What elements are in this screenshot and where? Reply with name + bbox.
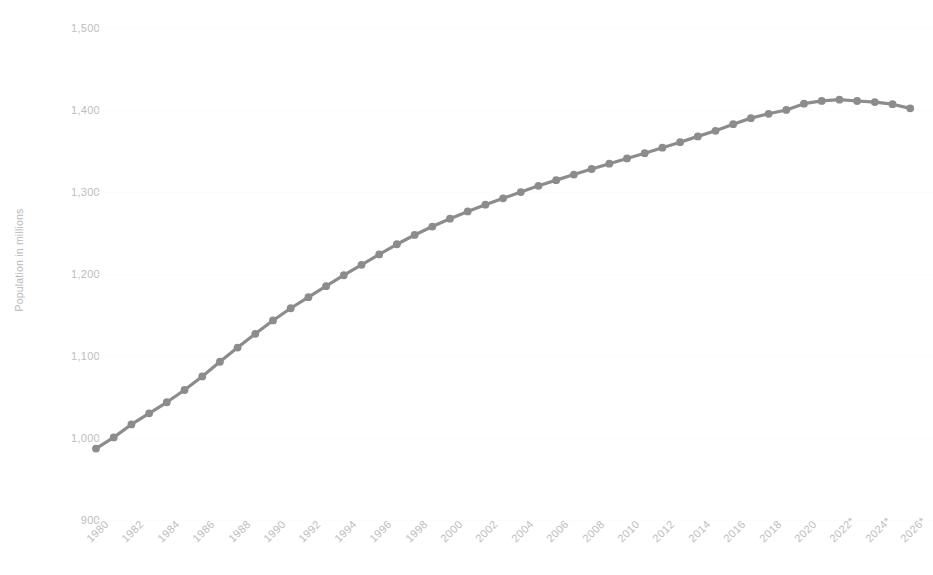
data-point-marker: [428, 223, 436, 231]
data-point-marker: [234, 344, 242, 352]
population-line-chart: Population in millions 9001,0001,1001,20…: [0, 0, 933, 575]
data-point-marker: [871, 98, 879, 106]
data-point-marker: [800, 100, 808, 108]
population-series-line: [96, 100, 910, 449]
data-point-marker: [198, 373, 206, 381]
data-point-marker: [552, 176, 560, 184]
data-point-marker: [535, 182, 543, 190]
data-point-marker: [305, 293, 313, 301]
data-point-marker: [747, 114, 755, 122]
data-point-marker: [570, 171, 578, 179]
data-point-marker: [641, 149, 649, 157]
data-point-marker: [712, 127, 720, 135]
data-point-marker: [765, 110, 773, 118]
data-point-marker: [588, 165, 596, 173]
data-point-marker: [499, 194, 507, 202]
data-point-marker: [251, 330, 259, 338]
data-point-marker: [216, 358, 224, 366]
data-point-marker: [676, 138, 684, 146]
data-point-marker: [853, 97, 861, 105]
data-point-marker: [906, 104, 914, 112]
data-point-marker: [446, 215, 454, 223]
data-point-marker: [818, 97, 826, 105]
data-point-marker: [127, 421, 135, 429]
plot-area: [0, 0, 933, 575]
data-point-marker: [605, 160, 613, 168]
data-point-marker: [322, 282, 330, 290]
data-point-marker: [623, 155, 631, 163]
data-point-marker: [694, 132, 702, 140]
data-point-marker: [393, 240, 401, 248]
data-point-marker: [517, 188, 525, 196]
data-point-marker: [375, 251, 383, 259]
population-series-markers: [92, 96, 914, 453]
data-point-marker: [482, 201, 490, 209]
data-point-marker: [340, 271, 348, 279]
data-point-marker: [782, 106, 790, 114]
data-point-marker: [464, 208, 472, 216]
data-point-marker: [269, 317, 277, 325]
data-point-marker: [729, 120, 737, 128]
data-point-marker: [181, 386, 189, 394]
data-point-marker: [287, 304, 295, 312]
data-point-marker: [92, 445, 100, 453]
data-point-marker: [358, 261, 366, 269]
data-point-marker: [659, 144, 667, 152]
data-point-marker: [836, 96, 844, 104]
data-point-marker: [411, 231, 419, 239]
data-point-marker: [110, 434, 118, 442]
data-point-marker: [889, 100, 897, 108]
data-point-marker: [163, 398, 171, 406]
data-point-marker: [145, 409, 153, 417]
